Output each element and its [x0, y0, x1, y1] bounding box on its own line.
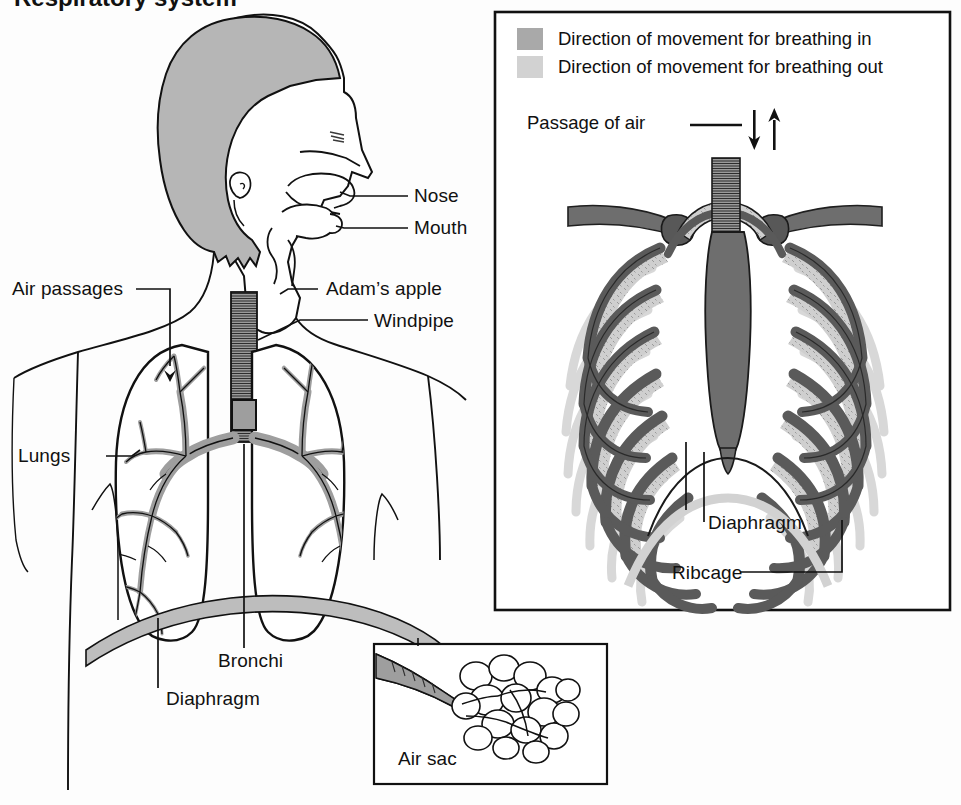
- respiratory-system-figure: Respiratory system: [0, 0, 961, 805]
- label-ribcage: Ribcage: [672, 562, 742, 584]
- legend-swatch-breathing-out: [517, 56, 543, 78]
- label-air-passages: Air passages: [12, 278, 123, 300]
- label-windpipe: Windpipe: [374, 310, 454, 332]
- legend-label-breathing-in: Direction of movement for breathing in: [558, 28, 872, 50]
- legend-swatch-breathing-in: [517, 28, 543, 50]
- label-diaphragm-left: Diaphragm: [166, 688, 260, 710]
- label-bronchi: Bronchi: [218, 650, 283, 672]
- label-adams-apple: Adam’s apple: [326, 278, 442, 300]
- diagram-artwork: [0, 0, 961, 805]
- label-nose: Nose: [414, 185, 459, 207]
- label-lungs: Lungs: [18, 445, 70, 467]
- label-passage-of-air: Passage of air: [527, 112, 645, 134]
- label-diaphragm-right: Diaphragm: [708, 512, 802, 534]
- label-air-sac: Air sac: [398, 748, 457, 770]
- label-mouth: Mouth: [414, 217, 467, 239]
- legend-label-breathing-out: Direction of movement for breathing out: [558, 56, 883, 78]
